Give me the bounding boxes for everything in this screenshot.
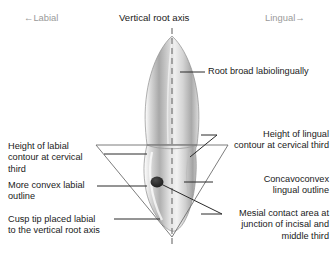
- dental-anatomy-figure: ←Labial Lingual→ Vertical root axis Root…: [0, 0, 333, 253]
- tooth-illustration: [0, 0, 333, 253]
- mesial-contact-area-dot: [151, 177, 164, 188]
